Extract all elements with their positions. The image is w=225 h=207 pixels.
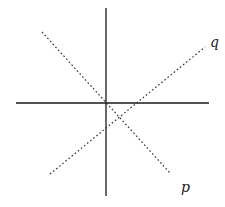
line-diagram: p q [0, 0, 225, 207]
dotted-line-q [50, 47, 205, 174]
line-label-p: p [181, 179, 190, 195]
line-label-q: q [210, 34, 219, 50]
